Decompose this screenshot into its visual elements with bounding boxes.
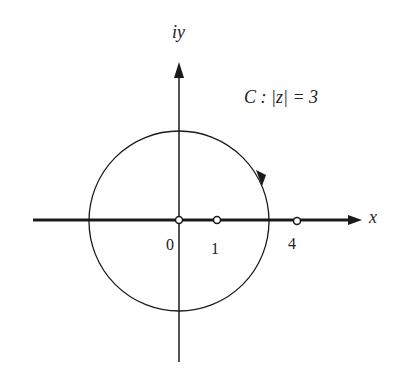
complex-plane-diagram: iy x C : |z| = 3 0 1 4 [0,0,405,381]
point-1 [214,217,221,224]
point-4 [294,218,301,225]
tick-label-0: 0 [166,236,174,254]
tick-label-1: 1 [211,240,219,258]
diagram-canvas [0,0,405,381]
point-0 [176,217,183,224]
x-axis-label: x [369,207,377,228]
y-axis-label: iy [172,22,185,43]
x-axis-arrow-icon [348,215,362,225]
curve-label: C : |z| = 3 [244,87,318,108]
y-axis-arrow-icon [174,62,184,78]
tick-label-4: 4 [288,235,296,253]
